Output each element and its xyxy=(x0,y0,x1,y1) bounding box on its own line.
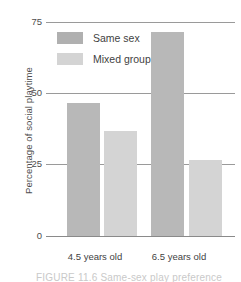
y-axis-title: Percentage of social playtime xyxy=(23,31,34,231)
legend-swatch-same-sex xyxy=(57,32,83,44)
legend-label-same-sex: Same sex xyxy=(93,32,140,44)
y-tick-label-50: 50 xyxy=(31,88,42,98)
bar-same-sex-4-5 xyxy=(67,103,100,236)
bar-mixed-group-6-5 xyxy=(189,160,222,236)
bar-same-sex-6-5 xyxy=(151,32,184,236)
chart-legend: Same sex Mixed group xyxy=(57,29,151,71)
y-tick-label-25: 25 xyxy=(31,159,42,169)
gridline-75 xyxy=(46,22,235,23)
gridline-50 xyxy=(46,93,235,94)
y-tick-label-0: 0 xyxy=(37,231,42,241)
x-category-label-6-5: 6.5 years old xyxy=(139,251,219,262)
figure-caption: FIGURE 11.6 Same-sex play preference xyxy=(36,272,222,282)
axis-baseline xyxy=(46,236,235,237)
x-category-label-4-5: 4.5 years old xyxy=(55,251,135,262)
legend-label-mixed-group: Mixed group xyxy=(93,53,151,65)
legend-item-same-sex: Same sex xyxy=(57,29,151,46)
legend-item-mixed-group: Mixed group xyxy=(57,50,151,67)
bar-mixed-group-4-5 xyxy=(104,131,137,236)
bar-chart-figure: Percentage of social playtime 75 50 25 0… xyxy=(0,0,241,282)
y-tick-label-75: 75 xyxy=(31,17,42,27)
legend-swatch-mixed-group xyxy=(57,53,83,65)
